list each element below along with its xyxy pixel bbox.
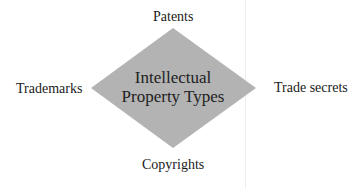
- center-label: Intellectual Property Types: [113, 68, 233, 106]
- center-line-1: Intellectual: [113, 68, 233, 87]
- label-copyrights: Copyrights: [142, 157, 204, 173]
- label-trade-secrets: Trade secrets: [274, 80, 348, 96]
- label-trademarks: Trademarks: [16, 81, 82, 97]
- center-line-2: Property Types: [113, 87, 233, 106]
- label-patents: Patents: [153, 9, 193, 25]
